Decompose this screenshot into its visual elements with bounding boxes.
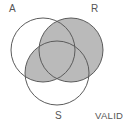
validity-status-label: VALID [95,111,123,121]
set-label-a: A [9,4,16,14]
set-label-s: S [55,111,62,121]
venn-diagram [0,0,131,128]
set-label-r: R [91,4,98,14]
